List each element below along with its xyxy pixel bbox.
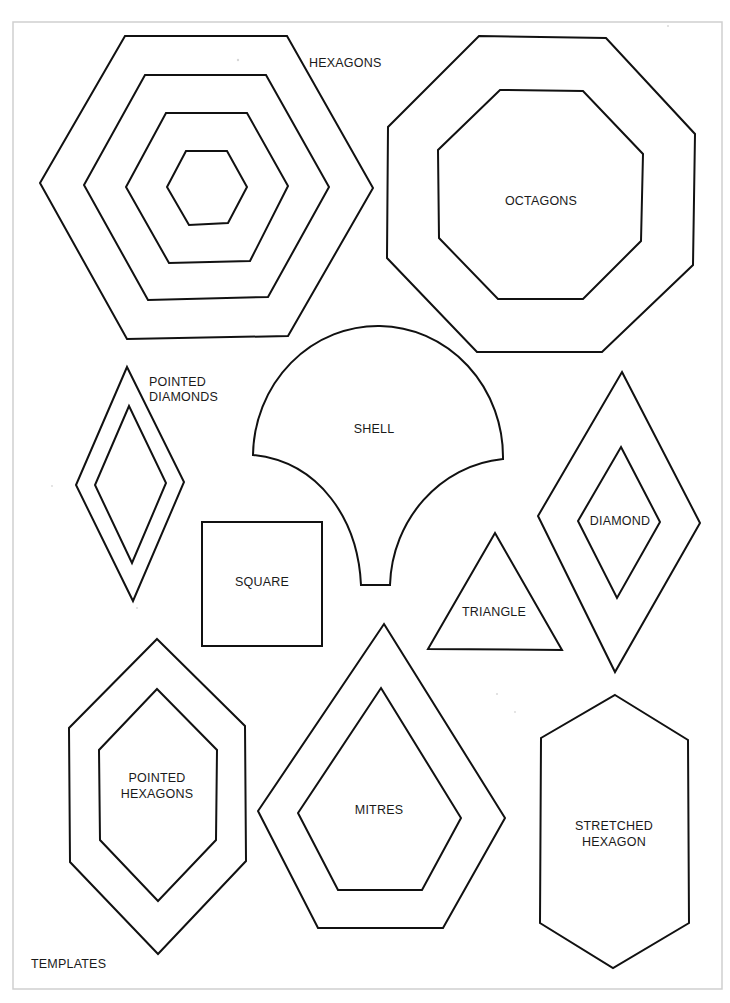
mitre-inner: [298, 688, 461, 890]
shell-label: SHELL: [354, 422, 395, 436]
mitres-template: MITRES: [258, 624, 505, 928]
pointed-hexagons-label-line-2: HEXAGONS: [121, 787, 193, 801]
print-specks: [51, 25, 669, 713]
mitre-outer: [258, 624, 505, 928]
pointed-diamond-inner: [95, 406, 166, 563]
triangle-label: TRIANGLE: [462, 605, 526, 619]
hexagons-template: HEXAGONS: [40, 36, 381, 339]
square-label: SQUARE: [235, 575, 289, 589]
pointed-diamonds-label-line-1: POINTED: [149, 375, 206, 389]
template-sheet: HEXAGONS OCTAGONS POINTED DIAMONDS SHELL…: [0, 0, 730, 1003]
stretched-hexagon-label-line-1: STRETCHED: [575, 819, 653, 833]
stretched-hexagon-label-line-2: HEXAGON: [582, 835, 646, 849]
pointed-diamonds-template: POINTED DIAMONDS: [76, 367, 218, 601]
hexagon-ring-3: [126, 113, 288, 263]
triangle-outline: [428, 533, 562, 650]
diamond-label: DIAMOND: [590, 514, 650, 528]
hexagon-ring-2: [84, 75, 329, 300]
diamond-template: DIAMOND: [538, 372, 700, 672]
octagons-label: OCTAGONS: [505, 194, 577, 208]
hexagon-ring-1: [40, 36, 373, 339]
octagons-template: OCTAGONS: [387, 36, 695, 352]
square-template: SQUARE: [202, 522, 322, 646]
sheet-title: TEMPLATES: [31, 957, 106, 971]
stretched-hexagon-template: STRETCHED HEXAGON: [540, 695, 689, 968]
pointed-hexagons-template: POINTED HEXAGONS: [69, 639, 246, 954]
hexagons-label: HEXAGONS: [309, 56, 381, 70]
pointed-hexagons-label-line-1: POINTED: [129, 771, 186, 785]
pointed-diamonds-label-line-2: DIAMONDS: [149, 390, 218, 404]
hexagon-ring-4: [167, 151, 247, 225]
triangle-template: TRIANGLE: [428, 533, 562, 650]
mitres-label: MITRES: [355, 803, 403, 817]
shell-template: SHELL: [253, 326, 503, 585]
shell-outline: [253, 326, 503, 585]
